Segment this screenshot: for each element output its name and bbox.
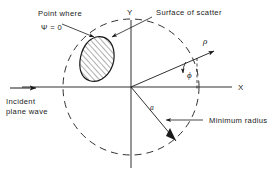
hatched-scatterer-blob xyxy=(80,37,114,82)
label-incident-line2: plane wave xyxy=(6,107,48,116)
rho-ray xyxy=(131,51,214,87)
radius-a-arrowhead xyxy=(166,128,176,141)
label-minimum-radius: Minimum radius xyxy=(209,116,268,125)
label-surface-of-scatter: Surface of scatter xyxy=(156,8,222,17)
leader-point-where xyxy=(62,24,94,37)
label-phi: ϕ xyxy=(187,70,192,80)
label-incident-line1: Incident xyxy=(6,97,36,106)
label-radius-a: a xyxy=(150,103,154,112)
diagram-canvas: Point where Ψ = 0 Surface of scatter Inc… xyxy=(0,0,279,174)
label-axis-y: Y xyxy=(127,8,133,17)
scattering-geometry-figure: Point where Ψ = 0 Surface of scatter Inc… xyxy=(0,0,279,174)
label-rho: ρ xyxy=(202,36,208,46)
label-psi-zero: Ψ = 0 xyxy=(41,23,62,32)
label-axis-x: X xyxy=(238,83,244,92)
label-point-where: Point where xyxy=(38,9,82,18)
